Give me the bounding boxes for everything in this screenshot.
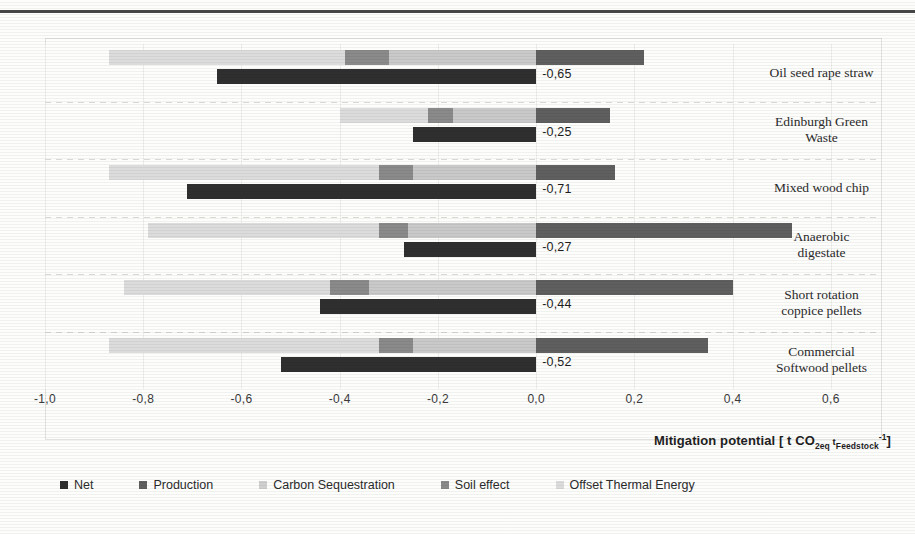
chart-legend: NetProductionCarbon SequestrationSoil ef… bbox=[60, 478, 880, 492]
bar-segment-production bbox=[536, 338, 708, 353]
bar-segment-soil-effect bbox=[379, 338, 413, 353]
bar-net bbox=[217, 69, 536, 84]
net-value-label: -0,71 bbox=[542, 182, 572, 196]
x-axis-title: Mitigation potential [ t CO2eq tFeedstoc… bbox=[0, 432, 891, 451]
bar-segment-production bbox=[536, 165, 615, 180]
bar-segment-carbon-sequestration bbox=[413, 165, 536, 180]
net-value-label: -0,27 bbox=[542, 240, 572, 254]
bar-net bbox=[320, 299, 536, 314]
bar-segment-soil-effect bbox=[379, 165, 413, 180]
bar-segment-carbon-sequestration bbox=[453, 108, 536, 123]
stacked-bar-negative bbox=[124, 280, 537, 295]
category-label: Short rotationcoppice pellets bbox=[734, 287, 909, 319]
category-label-line: Anaerobic bbox=[734, 229, 909, 245]
net-value-label: -0,52 bbox=[542, 355, 572, 369]
legend-item[interactable]: Offset Thermal Energy bbox=[556, 478, 695, 492]
category-label-line: Mixed wood chip bbox=[734, 180, 909, 196]
legend-item[interactable]: Production bbox=[139, 478, 213, 492]
legend-item[interactable]: Soil effect bbox=[441, 478, 510, 492]
category-label: Anaerobicdigestate bbox=[734, 229, 909, 261]
bar-segment-production bbox=[536, 50, 644, 65]
category-label-line: Waste bbox=[734, 130, 909, 146]
axis-title-sub-co2eq: 2eq bbox=[815, 441, 830, 451]
plot-area: -0,65-0,25-0,71-0,27-0,44-0,52 bbox=[45, 44, 880, 389]
bar-segment-offset-thermal-energy bbox=[109, 338, 379, 353]
bar-segment-offset-thermal-energy bbox=[340, 108, 428, 123]
x-tick-label: -0,6 bbox=[231, 392, 253, 406]
bar-net bbox=[413, 127, 536, 142]
legend-label: Net bbox=[74, 478, 93, 492]
bar-net bbox=[404, 242, 537, 257]
bar-segment-production bbox=[536, 280, 732, 295]
legend-item[interactable]: Net bbox=[60, 478, 93, 492]
category-label-line: Short rotation bbox=[734, 287, 909, 303]
legend-swatch-icon bbox=[139, 481, 147, 489]
legend-swatch-icon bbox=[60, 481, 68, 489]
x-tick-label: 0,0 bbox=[527, 392, 545, 406]
bar-segment-offset-thermal-energy bbox=[109, 165, 379, 180]
bar-net bbox=[281, 357, 536, 372]
legend-label: Soil effect bbox=[455, 478, 510, 492]
stacked-bar-negative bbox=[109, 50, 536, 65]
bar-segment-offset-thermal-energy bbox=[148, 223, 379, 238]
figure-container: -0,65-0,25-0,71-0,27-0,44-0,52 -1,0-0,8-… bbox=[0, 0, 915, 534]
category-label-line: Edinburgh Green bbox=[734, 114, 909, 130]
category-label: Edinburgh GreenWaste bbox=[734, 114, 909, 146]
x-tick-label: -0,4 bbox=[329, 392, 351, 406]
category-label: CommercialSoftwood pellets bbox=[734, 344, 909, 376]
stacked-bar-negative bbox=[109, 338, 536, 353]
axis-title-prefix: Mitigation potential [ t CO bbox=[654, 433, 815, 448]
x-tick-label: -0,2 bbox=[427, 392, 449, 406]
bar-segment-carbon-sequestration bbox=[369, 280, 536, 295]
bar-segment-offset-thermal-energy bbox=[109, 50, 345, 65]
bar-segment-soil-effect bbox=[345, 50, 389, 65]
legend-swatch-icon bbox=[556, 481, 564, 489]
bar-segment-carbon-sequestration bbox=[413, 338, 536, 353]
category-label-line: Oil seed rape straw bbox=[734, 65, 909, 81]
legend-label: Production bbox=[153, 478, 213, 492]
bar-segment-soil-effect bbox=[330, 280, 369, 295]
bar-segment-carbon-sequestration bbox=[408, 223, 536, 238]
bar-segment-soil-effect bbox=[379, 223, 408, 238]
stacked-bar-negative bbox=[148, 223, 536, 238]
stacked-bar-negative bbox=[340, 108, 536, 123]
bar-segment-production bbox=[536, 108, 610, 123]
category-label-line: digestate bbox=[734, 245, 909, 261]
legend-item[interactable]: Carbon Sequestration bbox=[259, 478, 395, 492]
x-tick-label: 0,6 bbox=[822, 392, 840, 406]
x-tick-label: 0,4 bbox=[724, 392, 742, 406]
category-label-line: coppice pellets bbox=[734, 303, 909, 319]
net-value-label: -0,25 bbox=[542, 125, 572, 139]
category-label-line: Softwood pellets bbox=[734, 360, 909, 376]
stacked-bar-negative bbox=[109, 165, 536, 180]
axis-title-sup-exponent: -1 bbox=[879, 432, 887, 442]
x-tick-label: -1,0 bbox=[34, 392, 56, 406]
legend-label: Offset Thermal Energy bbox=[570, 478, 695, 492]
net-value-label: -0,44 bbox=[542, 297, 572, 311]
x-tick-label: -0,8 bbox=[132, 392, 154, 406]
bar-net bbox=[187, 184, 536, 199]
x-axis: -1,0-0,8-0,6-0,4-0,20,00,20,40,6 bbox=[45, 392, 880, 414]
x-tick-label: 0,2 bbox=[626, 392, 644, 406]
bar-segment-carbon-sequestration bbox=[389, 50, 536, 65]
category-label: Oil seed rape straw bbox=[734, 65, 909, 81]
legend-swatch-icon bbox=[259, 481, 267, 489]
bar-segment-soil-effect bbox=[428, 108, 453, 123]
category-label-line: Commercial bbox=[734, 344, 909, 360]
bar-segment-offset-thermal-energy bbox=[124, 280, 330, 295]
legend-label: Carbon Sequestration bbox=[273, 478, 395, 492]
net-value-label: -0,65 bbox=[542, 67, 572, 81]
category-label: Mixed wood chip bbox=[734, 180, 909, 196]
axis-title-sub-feedstock: Feedstock bbox=[836, 441, 879, 451]
legend-swatch-icon bbox=[441, 481, 449, 489]
axis-title-suffix: ] bbox=[887, 433, 891, 448]
